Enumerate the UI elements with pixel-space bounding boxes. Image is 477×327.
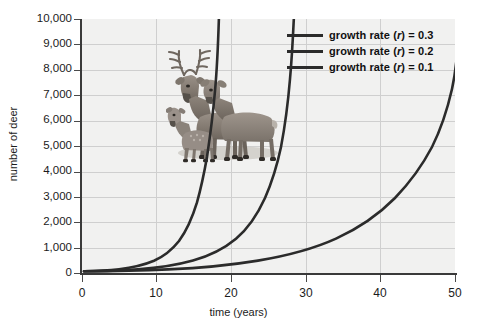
legend-item-growth-rate-0-3: growth rate (r) = 0.3	[287, 27, 467, 43]
y-tick-label: 8,000	[2, 63, 72, 75]
x-tick-label: 20	[211, 287, 251, 299]
legend-line-swatch	[287, 34, 323, 37]
legend-item-growth-rate-0-2: growth rate (r) = 0.2	[287, 43, 467, 59]
x-tick-mark	[231, 275, 232, 282]
y-tick-label: 2,000	[2, 216, 72, 228]
curve-growth-rate-0-1	[84, 41, 455, 271]
x-tick-label: 10	[136, 287, 176, 299]
x-tick-mark	[156, 275, 157, 282]
legend-item-label: growth rate (r) = 0.3	[329, 29, 434, 41]
x-tick-label: 50	[435, 287, 475, 299]
curve-growth-rate-0-2	[84, 19, 294, 271]
x-tick-label: 0	[62, 287, 102, 299]
chart-legend: growth rate (r) = 0.3 growth rate (r) = …	[287, 27, 467, 75]
legend-item-label: growth rate (r) = 0.1	[329, 61, 434, 73]
legend-item-label: growth rate (r) = 0.2	[329, 45, 434, 57]
curve-growth-rate-0-3	[84, 19, 219, 271]
legend-line-swatch	[287, 66, 323, 69]
x-tick-mark	[380, 275, 381, 282]
x-tick-mark	[82, 275, 83, 282]
x-axis-title: time (years)	[0, 306, 477, 318]
y-axis-line	[80, 19, 82, 275]
y-tick-label: 10,000	[2, 13, 72, 25]
y-tick-label: 0	[2, 267, 72, 279]
legend-item-growth-rate-0-1: growth rate (r) = 0.1	[287, 59, 467, 75]
x-tick-label: 30	[286, 287, 326, 299]
y-tick-label: 1,000	[2, 242, 72, 254]
x-axis-line	[80, 273, 457, 275]
y-tick-label: 9,000	[2, 38, 72, 50]
x-tick-mark	[306, 275, 307, 282]
chart-figure: 10,000 9,000 8,000 7,000 6,000 5,000 4,0…	[0, 0, 477, 327]
x-tick-label: 40	[360, 287, 400, 299]
y-axis-title: number of deer	[7, 79, 19, 209]
legend-line-swatch	[287, 50, 323, 53]
x-tick-mark	[455, 275, 456, 282]
